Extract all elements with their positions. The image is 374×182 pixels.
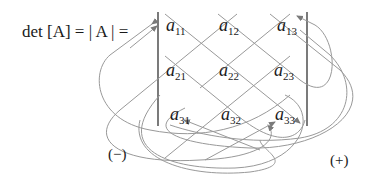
matrix-entry-a23: a23	[274, 60, 294, 82]
matrix-entry-a11: a11	[166, 15, 186, 37]
arrow-to-a33	[205, 122, 275, 160]
matrix-entry-a32: a32	[221, 104, 241, 126]
negative-sign-label: (−)	[108, 146, 126, 163]
determinant-equation-lhs: det [A] = | A | =	[22, 22, 128, 42]
matrix-entry-a21: a21	[166, 60, 186, 82]
matrix-entry-a31: a31	[170, 104, 190, 126]
matrix-entry-a12: a12	[219, 15, 239, 37]
matrix-entry-a13: a13	[277, 15, 297, 37]
matrix-entry-a22: a22	[219, 60, 239, 82]
matrix-entry-a33: a33	[275, 104, 295, 126]
positive-sign-label: (+)	[330, 152, 348, 169]
